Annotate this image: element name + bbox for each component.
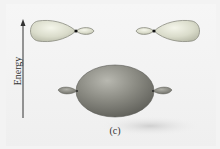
upper-left-orbital (31, 20, 95, 41)
nucleus-icon (74, 29, 77, 32)
upper-right-orbital (136, 20, 200, 41)
figure-caption: (c) (100, 125, 130, 136)
bonding-orbital (58, 65, 172, 117)
energy-axis-label: Energy (11, 56, 25, 86)
nucleus-icon (152, 29, 155, 32)
